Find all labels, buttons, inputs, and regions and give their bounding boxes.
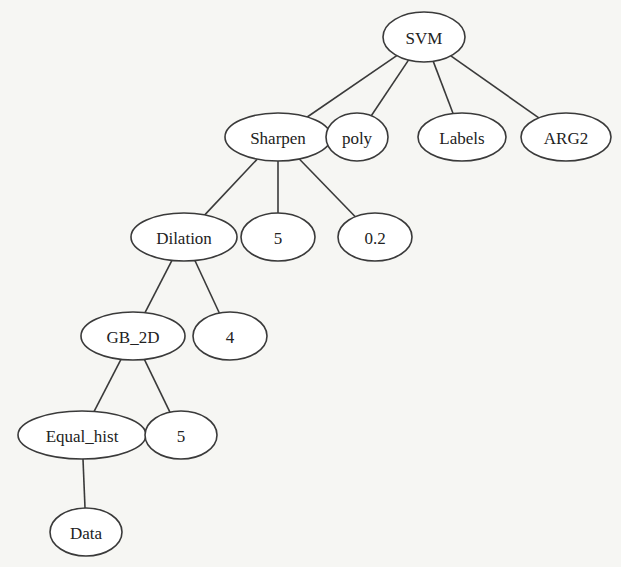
node-label: Data — [70, 524, 103, 543]
edge-sharpen-zero_two — [299, 159, 355, 217]
edge-svm-sharpen — [307, 56, 397, 117]
node-label: ARG2 — [544, 129, 588, 148]
node-label: SVM — [406, 29, 443, 48]
edge-svm-arg2 — [451, 56, 539, 118]
node-sharpen: Sharpen — [225, 113, 331, 161]
node-five_a: 5 — [241, 213, 315, 261]
node-svm: SVM — [383, 12, 465, 62]
node-five_b: 5 — [145, 411, 217, 459]
tree-diagram: SVMSharpenpolyLabelsARG2Dilation50.2GB_2… — [0, 0, 621, 567]
node-labels: Labels — [418, 113, 506, 161]
node-gb2d: GB_2D — [81, 312, 185, 360]
node-arg2: ARG2 — [521, 113, 611, 161]
edge-svm-labels — [433, 61, 453, 113]
node-label: Dilation — [156, 229, 212, 248]
node-label: 5 — [274, 229, 283, 248]
node-label: 0.2 — [364, 229, 385, 248]
tree-canvas: SVMSharpenpolyLabelsARG2Dilation50.2GB_2… — [0, 0, 621, 567]
edge-sharpen-dilation — [205, 159, 257, 215]
node-dilation: Dilation — [131, 213, 237, 261]
node-four: 4 — [193, 312, 267, 360]
node-label: GB_2D — [107, 328, 160, 347]
nodes-layer: SVMSharpenpolyLabelsARG2Dilation50.2GB_2… — [18, 12, 611, 556]
node-equal_hist: Equal_hist — [18, 411, 146, 459]
node-label: Equal_hist — [46, 427, 119, 446]
edge-dilation-gb2d — [145, 260, 172, 312]
edge-dilation-four — [195, 260, 219, 313]
node-label: Sharpen — [250, 129, 306, 148]
node-label: poly — [342, 129, 373, 148]
node-label: 4 — [226, 328, 235, 347]
edge-gb2d-five_b — [144, 359, 170, 412]
node-label: 5 — [177, 427, 186, 446]
node-data: Data — [50, 508, 122, 556]
node-zero_two: 0.2 — [338, 213, 412, 261]
edge-equal_hist-data — [83, 459, 85, 508]
node-poly: poly — [326, 113, 388, 161]
node-label: Labels — [439, 129, 484, 148]
edge-gb2d-equal_hist — [94, 359, 121, 411]
